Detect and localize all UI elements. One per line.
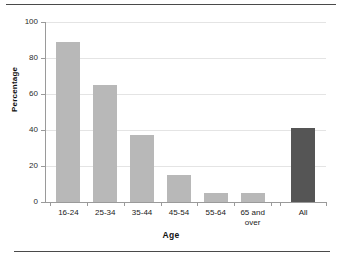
y-tick-mark bbox=[41, 58, 46, 59]
bar-chart-figure: 020406080100 16-2425-3435-4445-5455-6465… bbox=[0, 0, 342, 260]
y-tick-label: 0 bbox=[34, 198, 38, 206]
y-tick-label: 100 bbox=[25, 18, 38, 26]
y-tick-mark bbox=[41, 130, 46, 131]
y-tick-label: 20 bbox=[29, 162, 38, 170]
y-tick-mark bbox=[41, 94, 46, 95]
plot-wrapper: 020406080100 16-2425-3435-4445-5455-6465… bbox=[0, 0, 342, 260]
gridline bbox=[46, 58, 326, 59]
x-tick-mark bbox=[87, 202, 88, 206]
bar bbox=[241, 193, 265, 202]
gridline bbox=[46, 166, 326, 167]
x-tick-mark bbox=[197, 202, 198, 206]
y-tick-label: 60 bbox=[29, 90, 38, 98]
x-tick-mark bbox=[161, 202, 162, 206]
plot-area bbox=[46, 22, 326, 202]
gridline bbox=[46, 94, 326, 95]
bar bbox=[204, 193, 228, 202]
y-tick-mark bbox=[41, 166, 46, 167]
y-axis-title: Percentage bbox=[10, 67, 19, 112]
x-tick-mark bbox=[280, 202, 281, 206]
bar bbox=[56, 42, 80, 202]
x-axis-title: Age bbox=[0, 230, 342, 240]
y-tick-mark bbox=[41, 22, 46, 23]
bar bbox=[93, 85, 117, 202]
x-tick-mark bbox=[50, 202, 51, 206]
x-tick-mark bbox=[234, 202, 235, 206]
gridline bbox=[46, 130, 326, 131]
bar bbox=[130, 135, 154, 202]
x-tick-mark bbox=[271, 202, 272, 206]
y-axis-line bbox=[45, 22, 46, 203]
y-tick-mark bbox=[41, 202, 46, 203]
y-tick-label: 40 bbox=[29, 126, 38, 134]
bar bbox=[167, 175, 191, 202]
gridline bbox=[46, 22, 326, 23]
x-tick-mark bbox=[326, 202, 327, 206]
bar bbox=[291, 128, 315, 202]
y-tick-label: 80 bbox=[29, 54, 38, 62]
x-tick-label: All bbox=[273, 208, 333, 218]
x-tick-mark bbox=[124, 202, 125, 206]
